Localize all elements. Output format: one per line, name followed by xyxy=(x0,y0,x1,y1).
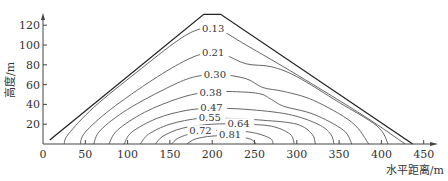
contour-lines: 0.130.210.300.380.470.550.640.720.81 xyxy=(50,14,413,144)
x-tick-label: 450 xyxy=(413,148,434,161)
y-tick-label: 20 xyxy=(26,118,40,131)
x-tick-label: 100 xyxy=(117,148,138,161)
x-tick-label: 0 xyxy=(40,148,47,161)
y-tick-label: 60 xyxy=(26,79,40,92)
x-axis-arrow-icon xyxy=(430,142,438,146)
contour-label: 0.81 xyxy=(219,129,241,140)
contour-label: 0.72 xyxy=(189,125,211,136)
x-tick-label: 350 xyxy=(329,148,350,161)
contour-chart: 0.130.210.300.380.470.550.640.720.81 050… xyxy=(0,0,448,181)
y-tick-label: 80 xyxy=(26,59,40,72)
x-tick-label: 250 xyxy=(244,148,265,161)
x-tick-label: 150 xyxy=(159,148,180,161)
x-tick-label: 200 xyxy=(202,148,223,161)
y-axis-title: 高度/m xyxy=(3,61,17,98)
contour-label: 0.38 xyxy=(200,87,222,98)
x-tick-label: 50 xyxy=(78,148,92,161)
contour-label: 0.64 xyxy=(227,118,249,129)
contour-label: 0.55 xyxy=(199,112,221,123)
contour-label: 0.30 xyxy=(204,69,226,80)
x-tick-label: 400 xyxy=(371,148,392,161)
y-tick-label: 100 xyxy=(19,39,40,52)
contour-label: 0.13 xyxy=(202,23,224,34)
y-tick-label: 40 xyxy=(26,98,40,111)
y-tick-label: 120 xyxy=(19,19,40,32)
contour-label: 0.21 xyxy=(202,47,224,58)
x-tick-label: 300 xyxy=(286,148,307,161)
x-axis-title: 水平距离/m xyxy=(386,163,445,177)
y-axis-arrow-icon xyxy=(41,13,45,20)
x-ticks: 050100150200250300350400450 xyxy=(40,140,435,161)
